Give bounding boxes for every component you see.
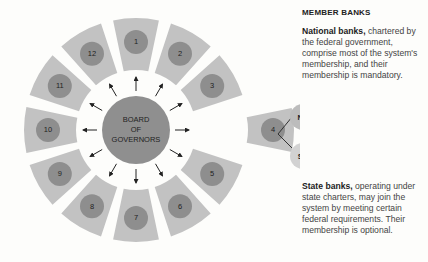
district-number-9: 9 — [58, 169, 62, 178]
federal-reserve-diagram: 123456789101112 BOARD OF GOVERNORS NB SB — [0, 0, 300, 262]
district-number-3: 3 — [210, 81, 214, 90]
arrow-to-district-6 — [156, 164, 163, 176]
district-number-6: 6 — [178, 202, 182, 211]
arrow-to-district-12 — [110, 84, 117, 96]
national-banks-lead: National banks, — [302, 26, 366, 36]
district-number-11: 11 — [56, 81, 64, 90]
district-number-5: 5 — [210, 169, 214, 178]
arrow-to-district-9 — [90, 150, 102, 157]
board-label-line2: OF — [131, 125, 142, 134]
district-number-10: 10 — [44, 125, 52, 134]
state-banks-lead: State banks, — [302, 181, 353, 191]
board-label-line3: GOVERNORS — [112, 135, 161, 144]
arrow-to-district-2 — [156, 84, 163, 96]
state-banks-text: State banks, operating under state chart… — [302, 181, 426, 236]
arrow-to-district-8 — [110, 164, 117, 176]
arrow-to-district-3 — [170, 104, 182, 111]
member-banks-heading: MEMBER BANKS — [302, 7, 426, 18]
district-number-1: 1 — [134, 37, 138, 46]
board-label-line1: BOARD — [123, 115, 150, 124]
nb-label: NB — [298, 113, 300, 122]
district-number-2: 2 — [178, 49, 182, 58]
district-number-12: 12 — [88, 49, 96, 58]
arrow-to-district-5 — [170, 150, 182, 157]
district-number-8: 8 — [90, 202, 94, 211]
sb-label: SB — [298, 152, 300, 161]
national-banks-text: National banks, chartered by the federal… — [302, 26, 426, 81]
arrow-to-district-11 — [90, 104, 102, 111]
district-number-7: 7 — [134, 213, 138, 222]
district-number-4: 4 — [271, 125, 275, 134]
